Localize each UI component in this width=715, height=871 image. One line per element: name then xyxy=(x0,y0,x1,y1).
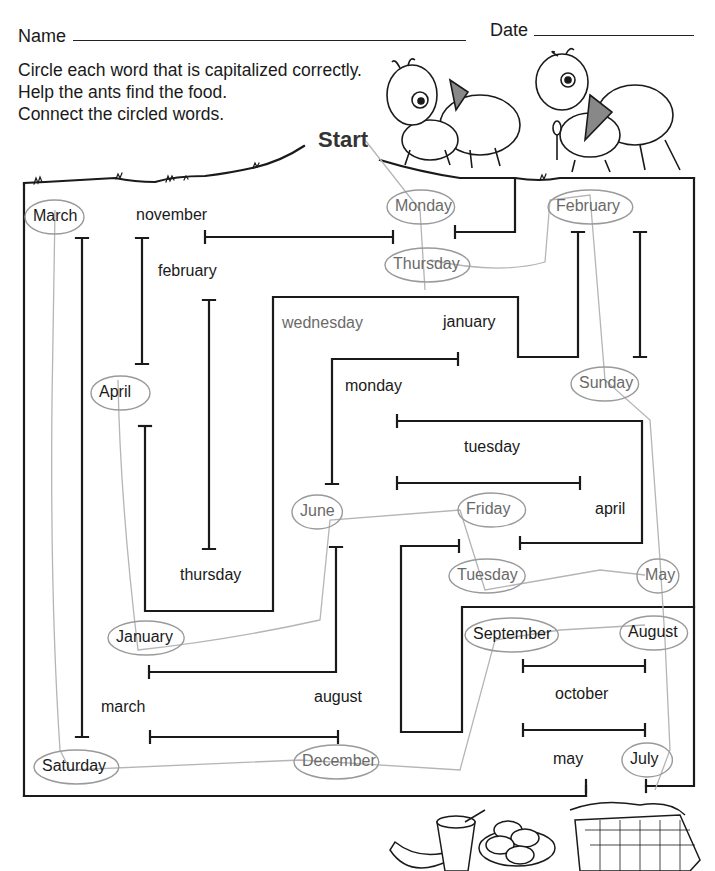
maze-word-saturday-circled[interactable]: Saturday xyxy=(42,757,106,775)
maze-word-monday[interactable]: monday xyxy=(345,377,402,395)
maze-word-august-circled[interactable]: August xyxy=(628,623,678,641)
maze-word-thursday[interactable]: thursday xyxy=(180,566,241,584)
maze-word-may-circled[interactable]: May xyxy=(645,566,675,584)
maze-word-march-circled[interactable]: March xyxy=(33,207,77,225)
maze-top-ground xyxy=(24,146,304,184)
maze-word-monday-circled[interactable]: Monday xyxy=(395,197,452,215)
maze-word-december-circled[interactable]: December xyxy=(302,752,376,770)
maze-word-march[interactable]: march xyxy=(101,698,145,716)
pencil-path xyxy=(365,140,670,790)
ant-with-spoon-illustration xyxy=(536,49,680,172)
maze-word-august[interactable]: august xyxy=(314,688,362,706)
maze-word-june-circled[interactable]: June xyxy=(300,502,335,520)
maze-word-january[interactable]: january xyxy=(443,313,495,331)
maze-word-february-circled[interactable]: February xyxy=(556,197,620,215)
maze-word-october[interactable]: october xyxy=(555,685,608,703)
maze-word-july-circled[interactable]: July xyxy=(630,750,658,768)
maze-word-thursday-circled[interactable]: Thursday xyxy=(393,255,460,273)
maze-word-tuesday[interactable]: tuesday xyxy=(464,438,520,456)
maze-word-september-circled[interactable]: September xyxy=(473,625,551,643)
maze-word-april-circled[interactable]: April xyxy=(99,383,131,401)
maze-word-sunday-circled[interactable]: Sunday xyxy=(579,374,633,392)
maze-word-january-circled[interactable]: January xyxy=(116,628,173,646)
maze-word-april[interactable]: april xyxy=(595,500,625,518)
maze-word-wednesday[interactable]: wednesday xyxy=(282,314,363,332)
start-label: Start xyxy=(318,127,368,153)
maze-word-february[interactable]: february xyxy=(158,262,217,280)
picnic-basket-icon xyxy=(575,815,700,871)
maze-word-may[interactable]: may xyxy=(553,750,583,768)
maze-word-tuesday-circled[interactable]: Tuesday xyxy=(457,566,518,584)
maze-word-friday-circled[interactable]: Friday xyxy=(466,500,510,518)
food-illustrations xyxy=(390,802,700,871)
ant-with-fork-illustration xyxy=(387,59,520,168)
maze-word-november[interactable]: november xyxy=(136,206,207,224)
